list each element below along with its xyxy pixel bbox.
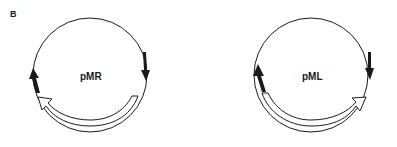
plasmid-pmr: pMR [29, 18, 150, 132]
plasmid-name-pmr: pMR [80, 71, 102, 82]
plasmid-diagram: pMR pML [0, 0, 397, 147]
solid-arrow-right-pml [365, 52, 374, 80]
plasmid-pml: pML [253, 18, 374, 132]
plasmid-name-pml: pML [302, 71, 323, 82]
solid-arrow-right-pmr [141, 52, 150, 81]
